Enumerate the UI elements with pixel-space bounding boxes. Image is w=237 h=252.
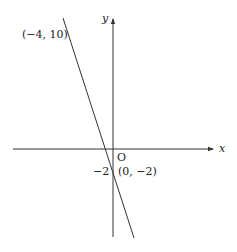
graph-line — [63, 18, 134, 238]
x-axis-label: x — [219, 143, 225, 155]
y-intercept-tick-label: −2 — [93, 166, 109, 178]
point-label-intercept: (0, −2) — [118, 166, 157, 178]
origin-label: O — [117, 152, 126, 164]
y-axis-label: y — [102, 13, 108, 25]
point-label-upper: (−4, 10) — [22, 29, 68, 41]
